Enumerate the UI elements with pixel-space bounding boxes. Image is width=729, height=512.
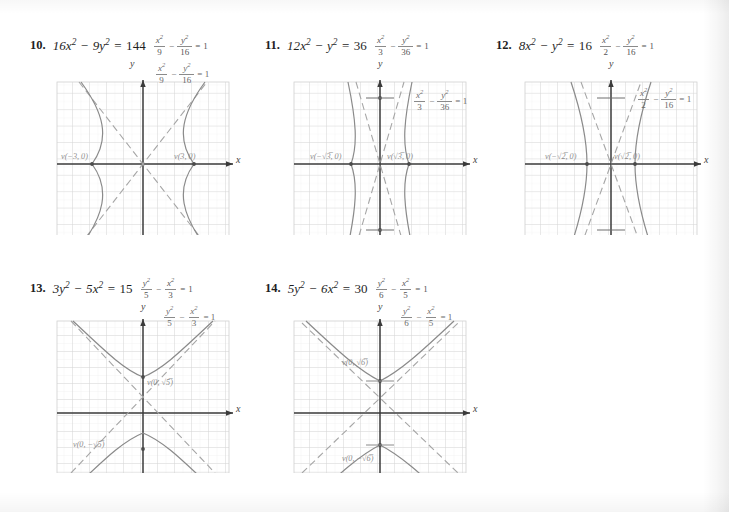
problem-13-den1: 5 bbox=[141, 289, 152, 300]
problem-11: 11. 12x2 − y2 = 36 x23 − y236 =1 bbox=[265, 34, 429, 57]
problem-12-number: 12. bbox=[496, 38, 512, 53]
problem-12-header: 12. 8x2 − y2 = 16 x22 − y216 =1 bbox=[496, 34, 654, 57]
graph-11-vertex-left-label: v(−√3̅, 0) bbox=[310, 152, 342, 161]
graph-12-x-label: x bbox=[704, 154, 708, 165]
graph-13-inline-equation: y25 − x23 = 1 bbox=[163, 300, 215, 328]
problem-12-equation: 8x2 − y2 = 16 bbox=[519, 37, 592, 54]
graph-10-vertex-right-label: v(3, 0) bbox=[174, 152, 196, 161]
problem-10-den2: 16 bbox=[177, 46, 192, 57]
problem-14-standard-form: y26 − x25 =1 bbox=[375, 277, 428, 300]
problem-14-number: 14. bbox=[265, 281, 281, 296]
problem-11-number: 11. bbox=[265, 38, 280, 53]
problem-13: 13. 3y2 − 5x2 = 15 y25 − x23 =1 bbox=[30, 277, 193, 300]
problem-10-equation: 16x2 − 9y2 = 144 bbox=[53, 37, 146, 54]
graph-14-y-label: y bbox=[378, 301, 382, 312]
problem-11-den1: 3 bbox=[375, 46, 386, 57]
graph-13-vertex-bottom-label: v(0, −√5̅) bbox=[73, 440, 105, 449]
problem-11-equation: 12x2 − y2 = 36 bbox=[287, 37, 367, 54]
problem-12-den1: 2 bbox=[600, 46, 611, 57]
graph-10-y-label: y bbox=[130, 58, 134, 69]
problem-11-standard-form: x23 − y236 =1 bbox=[374, 34, 429, 57]
graph-14-vertex-bottom-label: v(0, −√6̅) bbox=[342, 454, 374, 463]
problem-11-header: 11. 12x2 − y2 = 36 x23 − y236 =1 bbox=[265, 34, 429, 57]
problem-14-header: 14. 5y2 − 6x2 = 30 y26 − x25 =1 bbox=[265, 277, 428, 300]
graph-14-vertex-top-label: v(0, √6̅) bbox=[342, 358, 368, 367]
problem-13-rhs: 1 bbox=[188, 284, 193, 294]
graph-10: y x29 − y216 = 1 bbox=[55, 60, 235, 235]
problem-13-den2: 3 bbox=[165, 289, 176, 300]
graph-11-inline-equation: x23 − y236 = 1 bbox=[413, 84, 467, 112]
problem-10-header: 10. 16x2 − 9y2 = 144 x29 − y216 =1 bbox=[30, 34, 208, 57]
problem-10: 10. 16x2 − 9y2 = 144 x29 − y216 =1 bbox=[30, 34, 208, 57]
problem-10-standard-form: x29 − y216 =1 bbox=[153, 34, 208, 57]
problem-10-rhs: 1 bbox=[203, 41, 208, 51]
graph-12: y x22 − y216 = 1 v(−√2̅ bbox=[523, 60, 703, 235]
problem-13-standard-form: y25 − x23 =1 bbox=[140, 277, 193, 300]
problem-14-den2: 5 bbox=[400, 289, 411, 300]
graph-14-canvas: v(0, √6̅) v(0, −√6̅) bbox=[292, 303, 472, 473]
graph-12-inline-equation: x22 − y216 = 1 bbox=[637, 82, 691, 110]
problem-13-header: 13. 3y2 − 5x2 = 15 y25 − x23 =1 bbox=[30, 277, 193, 300]
graph-11-y-label: y bbox=[378, 58, 382, 69]
problem-11-rhs: 1 bbox=[424, 41, 429, 51]
problem-11-den2: 36 bbox=[398, 46, 413, 57]
graph-13-y-label: y bbox=[141, 301, 145, 312]
problem-10-number: 10. bbox=[30, 38, 46, 53]
graph-14-x-label: x bbox=[473, 403, 477, 414]
problem-14: 14. 5y2 − 6x2 = 30 y26 − x25 =1 bbox=[265, 277, 428, 300]
graph-13: y y25 − x23 = 1 v( bbox=[55, 303, 235, 473]
graph-11: y x23 − y236 = 1 bbox=[292, 60, 472, 235]
problem-13-number: 13. bbox=[30, 281, 46, 296]
graph-12-y-label: y bbox=[609, 58, 613, 69]
graph-10-canvas: v(−3, 0) v(3, 0) bbox=[55, 60, 235, 235]
problem-12-standard-form: x22 − y216 =1 bbox=[599, 34, 654, 57]
problem-10-den1: 9 bbox=[154, 46, 165, 57]
graph-14: y y26 − x25 = 1 v(0, √6 bbox=[292, 303, 472, 473]
graph-10-x-label: x bbox=[236, 154, 240, 165]
graph-12-vertex-right-label: v(√2̅, 0) bbox=[614, 152, 640, 161]
graph-10-inline-equation: x29 − y216 = 1 bbox=[155, 57, 209, 85]
graph-12-vertex-left-label: v(−√2̅, 0) bbox=[545, 152, 577, 161]
graph-13-x-label: x bbox=[236, 403, 240, 414]
graph-13-vertex-top-label: v(0, √5̅) bbox=[147, 378, 173, 387]
graph-11-vertex-right-label: v(√3̅, 0) bbox=[387, 152, 413, 161]
scan-edge-right bbox=[703, 0, 729, 512]
problem-13-equation: 3y2 − 5x2 = 15 bbox=[53, 280, 133, 297]
problem-12: 12. 8x2 − y2 = 16 x22 − y216 =1 bbox=[496, 34, 654, 57]
graph-11-x-label: x bbox=[473, 154, 477, 165]
problem-14-den1: 6 bbox=[376, 289, 387, 300]
problem-12-den2: 16 bbox=[623, 46, 638, 57]
graph-10-vertex-left-label: v(−3, 0) bbox=[61, 152, 88, 161]
scan-edge-bottom bbox=[0, 492, 729, 512]
graph-14-inline-equation: y26 − x25 = 1 bbox=[400, 300, 452, 328]
graph-13-canvas: v(0, √5̅) v(0, −√5̅) bbox=[55, 303, 235, 473]
problem-14-equation: 5y2 − 6x2 = 30 bbox=[288, 280, 368, 297]
problem-14-rhs: 1 bbox=[423, 284, 428, 294]
problem-12-rhs: 1 bbox=[649, 41, 654, 51]
scan-edge-top bbox=[0, 0, 729, 14]
